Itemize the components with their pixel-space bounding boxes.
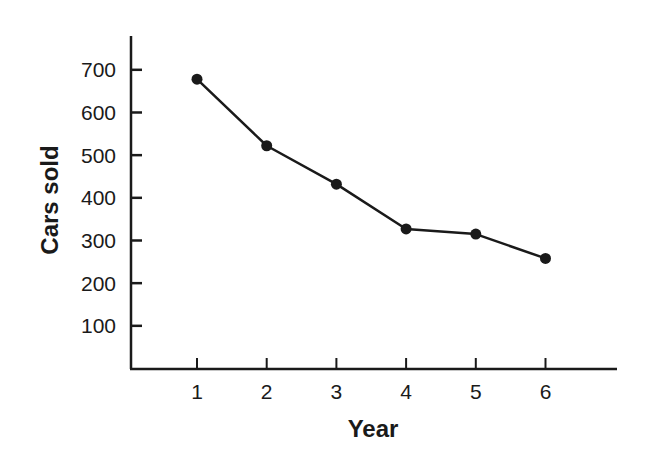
y-tick-label: 500: [81, 144, 116, 167]
data-point-marker: [401, 223, 412, 234]
x-tick-label: 6: [540, 380, 552, 403]
y-axis-title: Cars sold: [36, 145, 63, 254]
x-ticks: 123456: [191, 358, 551, 403]
data-point-marker: [331, 179, 342, 190]
y-ticks: 100200300400500600700: [81, 58, 142, 337]
y-tick-label: 400: [81, 186, 116, 209]
series-line: [197, 79, 546, 258]
y-tick-label: 200: [81, 272, 116, 295]
data-series: [192, 74, 552, 264]
x-tick-label: 4: [400, 380, 412, 403]
data-point-marker: [192, 74, 203, 85]
x-tick-label: 3: [331, 380, 343, 403]
y-tick-label: 600: [81, 101, 116, 124]
x-axis-title: Year: [348, 415, 399, 442]
y-tick-label: 100: [81, 314, 116, 337]
x-tick-label: 5: [470, 380, 482, 403]
data-point-marker: [540, 253, 551, 264]
line-chart: 100200300400500600700 123456 Year Cars s…: [0, 0, 649, 458]
x-tick-label: 1: [191, 380, 203, 403]
x-tick-label: 2: [261, 380, 273, 403]
y-tick-label: 700: [81, 58, 116, 81]
data-point-marker: [261, 140, 272, 151]
data-point-marker: [470, 229, 481, 240]
y-tick-label: 300: [81, 229, 116, 252]
